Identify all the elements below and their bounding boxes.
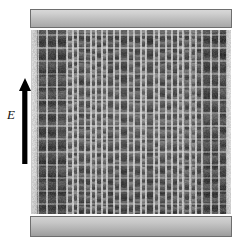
bottom-substrate-layer [30,216,232,237]
field-annotation: E [0,78,34,164]
micrograph-image [30,9,232,237]
field-label-E: E [7,108,15,121]
top-capping-layer [30,9,232,28]
sem-grain-overlay [32,30,231,214]
macroporous-silicon-lattice [31,30,231,214]
sem-micrograph-figure: E [0,0,243,246]
